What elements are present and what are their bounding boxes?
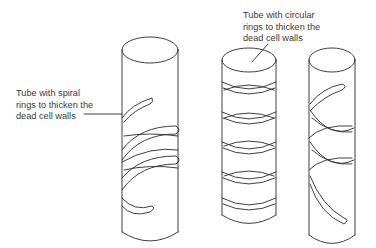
tube-3-spiral bbox=[309, 48, 355, 244]
circular-leader-line bbox=[252, 44, 268, 62]
tube-1-spiral bbox=[122, 37, 179, 241]
xylem-diagram bbox=[0, 0, 376, 248]
tube-2-circular-rings bbox=[222, 48, 276, 224]
